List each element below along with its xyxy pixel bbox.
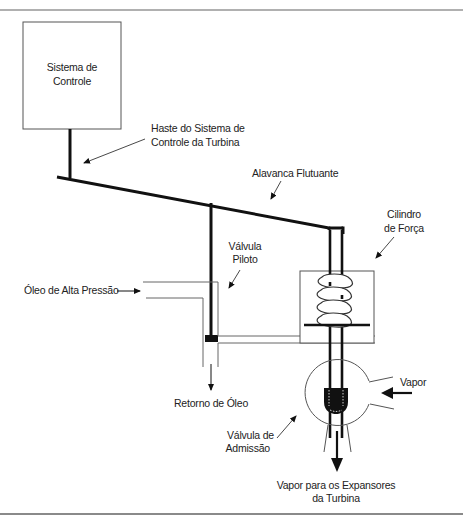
steam-outlet-label-line2: da Turbina	[312, 492, 360, 504]
pilot-valve-label-line2: Piloto	[232, 253, 257, 265]
admission-valve-pointer	[277, 416, 296, 438]
pilot-valve-pointer	[229, 270, 240, 288]
control-rod-label-line1: Haste do Sistema de	[151, 122, 245, 134]
control-system-label-line2: Controle	[53, 75, 91, 87]
steam-inlet-label: Vapor	[400, 376, 427, 388]
control-system-box: Sistema de Controle	[23, 22, 121, 129]
pilot-valve-label-line1: Válvula	[228, 240, 261, 252]
power-cylinder-pointer	[376, 237, 394, 258]
floating-lever-label: Alavanca Flutuante	[252, 167, 339, 179]
control-rod-label-line2: Controle da Turbina	[151, 136, 240, 148]
admission-valve-label-line2: Admissão	[225, 442, 270, 454]
power-cylinder-label-line1: Cilindro	[387, 208, 421, 220]
control-rod-pointer	[84, 139, 145, 163]
power-cylinder-label-line2: de Força	[384, 222, 424, 234]
floating-lever-pointer	[271, 181, 281, 199]
floating-lever	[57, 177, 329, 230]
control-system-label-line1: Sistema de	[47, 61, 98, 73]
pilot-valve-spool	[205, 335, 218, 342]
steam-outlet-label-line1: Vapor para os Expansores	[277, 479, 396, 491]
oil-return-label: Retorno de Óleo	[174, 397, 248, 409]
admission-valve-label-line1: Válvula de	[227, 429, 274, 441]
admission-valve	[305, 360, 394, 452]
valve-disc	[324, 388, 348, 414]
high-pressure-oil-label: Óleo de Alta Pressão	[24, 284, 119, 296]
turbine-governor-diagram: Sistema de Controle Haste do Sistema de …	[0, 0, 463, 525]
